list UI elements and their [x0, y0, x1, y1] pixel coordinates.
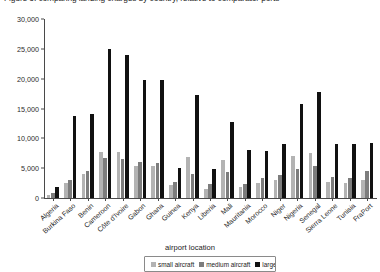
x-tick-mark — [297, 198, 298, 201]
bar-group — [184, 19, 201, 198]
bar — [47, 195, 51, 198]
bar — [151, 166, 155, 198]
legend-label: small aircraft — [158, 261, 194, 268]
bar — [296, 169, 300, 198]
bar — [64, 183, 68, 199]
plot-area — [44, 19, 376, 198]
x-tick-mark — [262, 198, 263, 201]
bar — [256, 183, 260, 199]
bar — [143, 80, 147, 198]
bar — [121, 159, 125, 198]
bar — [309, 153, 313, 198]
bar — [55, 187, 59, 198]
legend-item: small aircraft — [151, 261, 194, 268]
bar — [134, 166, 138, 198]
bar — [86, 171, 90, 198]
bar — [186, 157, 190, 198]
bar — [204, 189, 208, 198]
x-tick-mark — [332, 198, 333, 201]
bar — [365, 171, 369, 198]
x-tick-mark — [70, 198, 71, 201]
bar-group — [201, 19, 218, 198]
legend-swatch — [151, 262, 156, 267]
bar — [125, 55, 129, 198]
bar — [278, 175, 282, 198]
bar — [261, 178, 265, 198]
bar-group — [306, 19, 323, 198]
bar — [138, 162, 142, 198]
bar — [239, 187, 243, 198]
bar — [68, 180, 72, 198]
bar — [317, 92, 321, 198]
bar-group — [271, 19, 288, 198]
chart-title: Figure 3: comparing landing charges by c… — [4, 0, 380, 4]
bar — [90, 114, 94, 198]
bar — [221, 160, 225, 198]
x-tick-mark — [158, 198, 159, 201]
bar-group — [166, 19, 183, 198]
y-tick-label: 30,000 — [0, 15, 39, 24]
legend-swatch — [199, 262, 204, 267]
bar-group — [324, 19, 341, 198]
bar — [313, 166, 317, 198]
x-tick-mark — [315, 198, 316, 201]
bar-group — [96, 19, 113, 198]
bar — [291, 156, 295, 198]
y-tick-label: 25,000 — [0, 44, 39, 53]
y-tick-label: 10,000 — [0, 134, 39, 143]
legend-label: medium aircraft — [206, 261, 250, 268]
y-tick-label: 15,000 — [0, 104, 39, 113]
legend-item: large aircraft — [255, 261, 276, 268]
bar — [178, 168, 182, 198]
bar-group — [289, 19, 306, 198]
x-tick-mark — [53, 198, 54, 201]
x-tick-mark — [105, 198, 106, 201]
bar — [195, 95, 199, 198]
y-tick-label: 5,000 — [0, 164, 39, 173]
bar — [243, 184, 247, 198]
x-tick-mark — [350, 198, 351, 201]
bar-group — [359, 19, 376, 198]
bar — [169, 185, 173, 198]
bar — [265, 151, 269, 198]
bar — [230, 122, 234, 198]
bar-group — [61, 19, 78, 198]
bar — [226, 172, 230, 198]
bar-group — [219, 19, 236, 198]
bar-group — [131, 19, 148, 198]
legend-swatch — [255, 262, 260, 267]
bar — [344, 183, 348, 198]
x-tick-mark — [123, 198, 124, 201]
bar — [331, 177, 335, 198]
x-tick-mark — [367, 198, 368, 201]
bar — [117, 152, 121, 198]
bar — [300, 104, 304, 198]
bar — [352, 144, 356, 198]
bar-group — [79, 19, 96, 198]
bar-group — [341, 19, 358, 198]
bar — [208, 184, 212, 198]
y-tick-label: 0 — [0, 194, 39, 203]
bar — [370, 143, 374, 198]
x-tick-mark — [210, 198, 211, 201]
bar — [191, 174, 195, 198]
bar — [160, 80, 164, 198]
bar — [82, 174, 86, 198]
bar — [335, 144, 339, 198]
bar — [361, 180, 365, 198]
chart-legend: small aircraftmedium aircraftlarge aircr… — [144, 256, 276, 272]
bar — [108, 49, 112, 198]
bar — [73, 116, 77, 198]
x-tick-mark — [140, 198, 141, 201]
bar-group — [149, 19, 166, 198]
bar — [156, 163, 160, 198]
bar-group — [236, 19, 253, 198]
x-tick-mark — [175, 198, 176, 201]
x-tick-mark — [193, 198, 194, 201]
legend-label: large aircraft — [262, 261, 276, 268]
x-tick-mark — [280, 198, 281, 201]
x-axis-label: airport location — [0, 243, 380, 252]
bar — [103, 158, 107, 198]
bar-group — [44, 19, 61, 198]
